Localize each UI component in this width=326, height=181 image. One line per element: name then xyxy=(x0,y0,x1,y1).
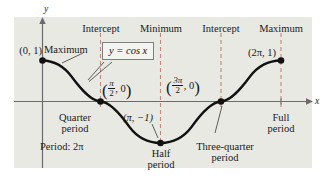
y-axis-arrowhead xyxy=(39,17,45,24)
point-label-2pi-1: (2π, 1) xyxy=(238,47,286,58)
label-full-period: Full period xyxy=(258,112,304,134)
label-three-quarter-period: Three-quarter period xyxy=(180,141,270,163)
fraction-pi-over-2: π2 xyxy=(108,79,115,98)
fraction-denominator: 2 xyxy=(108,89,115,98)
full-period-line1: Full xyxy=(273,112,290,123)
left-paren-glyph: ( xyxy=(102,81,108,100)
point-label-3pi-over-2: (3π2, 0) xyxy=(166,76,200,95)
right-paren-glyph: ) xyxy=(126,81,132,100)
three-quarter-line1: Three-quarter xyxy=(196,141,254,152)
quarter-period-line1: Quarter xyxy=(59,112,91,123)
leader-threequarter-to-point xyxy=(215,106,222,133)
left-paren-glyph: ( xyxy=(166,78,172,97)
point-label-pi-minus1: (π, −1) xyxy=(114,112,162,123)
point-dot-pi-minus1 xyxy=(157,140,164,147)
x-axis-arrowhead xyxy=(306,98,313,104)
right-paren-glyph: ) xyxy=(194,78,200,97)
half-period-line1: Half xyxy=(152,148,171,159)
full-period-line2: period xyxy=(268,123,295,134)
top-label-intercept-quarter: Intercept xyxy=(74,23,128,34)
leader-pi-minus1-to-point xyxy=(152,124,158,138)
coordinate-tail: , 0 xyxy=(115,83,126,94)
three-quarter-line2: period xyxy=(212,152,239,163)
quarter-period-line2: period xyxy=(62,123,89,134)
point-label-origin: (0, 1) xyxy=(10,45,42,56)
point-dot-0-1 xyxy=(39,57,46,64)
coordinate-tail: , 0 xyxy=(184,80,195,91)
label-maximum-left: Maximum xyxy=(44,44,86,55)
top-label-intercept-threequarter: Intercept xyxy=(194,23,248,34)
label-quarter-period: Quarter period xyxy=(50,112,100,134)
cosine-graph-figure: y x Intercept Minimum Intercept Maximum … xyxy=(0,0,326,181)
label-half-period: Half period xyxy=(138,148,184,170)
top-label-maximum-right: Maximum xyxy=(253,23,309,34)
fraction-denominator: 2 xyxy=(172,86,183,95)
point-dot-2pi-1 xyxy=(278,57,285,64)
top-label-minimum: Minimum xyxy=(133,23,189,34)
x-axis-label: x xyxy=(315,96,319,106)
equation-label-box: y = cos x xyxy=(102,42,154,60)
point-label-pi-over-2: (π2, 0) xyxy=(102,79,131,98)
point-dot-3pi-over-2 xyxy=(218,98,225,105)
label-period-value: Period: 2π xyxy=(40,141,112,152)
half-period-line2: period xyxy=(148,159,175,170)
y-axis-label: y xyxy=(44,4,48,14)
equation-text: y = cos x xyxy=(109,45,147,56)
fraction-3pi-over-2: 3π2 xyxy=(172,76,183,95)
